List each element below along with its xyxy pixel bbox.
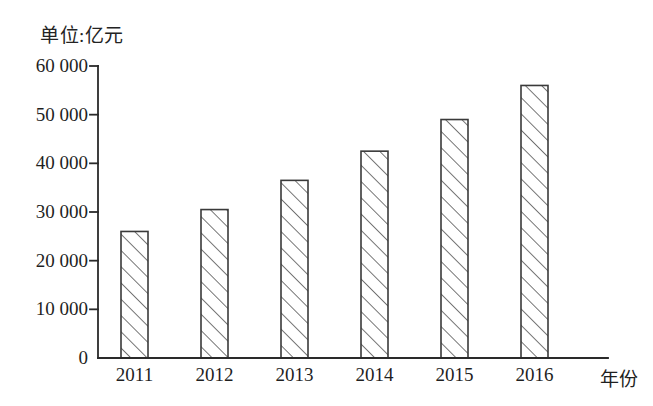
x-tick-label: 2013: [276, 364, 314, 386]
bar: [281, 180, 308, 358]
x-tick-label: 2011: [116, 364, 153, 386]
x-axis-title: 年份: [600, 364, 638, 391]
x-tick-label: 2015: [436, 364, 474, 386]
bar-chart: 单位:亿元 60 000 50 000 40 000 30 000 20 000…: [0, 0, 653, 406]
bars-group: [121, 85, 548, 358]
x-tick-label: 2014: [356, 364, 394, 386]
bar: [521, 85, 548, 358]
x-tick-label: 2012: [196, 364, 234, 386]
bar: [121, 231, 148, 358]
bar: [441, 120, 468, 358]
bar: [361, 151, 388, 358]
bar: [201, 210, 228, 358]
plot-area: [0, 0, 653, 406]
x-tick-label: 2016: [516, 364, 554, 386]
